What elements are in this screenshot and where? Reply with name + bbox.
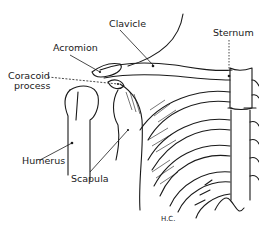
humerus-right	[70, 86, 98, 180]
scapula-leader	[90, 130, 128, 172]
label-scapula: Scapula	[71, 174, 109, 184]
label-sternum: Sternum	[213, 28, 254, 38]
shoulder-anatomy-diagram: Clavicle Sternum Acromion Coracoid proce…	[0, 0, 259, 228]
clavicle-leader	[120, 30, 153, 65]
acromion-leader	[70, 55, 100, 72]
sternum-manubrium	[230, 68, 252, 110]
humerus-left	[65, 90, 70, 175]
label-humerus: Humerus	[22, 156, 65, 166]
artist-signature: H.C.	[161, 214, 175, 224]
clavicle-bottom	[104, 75, 230, 80]
scapula-lateral	[114, 90, 119, 160]
coracoid	[108, 80, 124, 89]
label-acromion: Acromion	[53, 43, 98, 53]
label-coracoid-line2: process	[14, 81, 51, 91]
scapula-medial	[120, 84, 142, 210]
label-clavicle: Clavicle	[109, 19, 146, 29]
coracoid-leader	[48, 77, 118, 84]
